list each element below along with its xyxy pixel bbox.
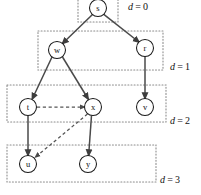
node-s-label: s xyxy=(96,3,99,13)
node-u[interactable]: u xyxy=(20,156,37,173)
level-label-d2-var: d xyxy=(170,115,176,126)
node-v[interactable]: v xyxy=(137,99,154,116)
level-label-d2-eq: = xyxy=(177,115,183,126)
node-w[interactable]: w xyxy=(49,42,66,59)
edge-x-u xyxy=(35,114,88,158)
level-label-d1-eq: = xyxy=(177,61,183,72)
level-label-d3-value: 3 xyxy=(175,174,180,185)
edge-w-x xyxy=(63,57,89,100)
level-label-d0-eq: = xyxy=(135,1,141,12)
bfs-tree-figure: s w r t x v u xyxy=(0,0,201,195)
node-w-label: w xyxy=(54,45,61,55)
cross-edges xyxy=(35,107,88,158)
edge-w-t xyxy=(32,57,52,100)
level-label-d0: d=0 xyxy=(128,1,148,12)
level-label-d1: d=1 xyxy=(170,61,190,72)
node-x[interactable]: x xyxy=(85,99,102,116)
edge-s-r xyxy=(104,14,140,42)
level-boxes xyxy=(7,0,166,182)
node-r[interactable]: r xyxy=(137,40,154,57)
edge-s-w xyxy=(62,15,93,45)
graph-nodes: s w r t x v u xyxy=(20,0,154,173)
level-label-d3-var: d xyxy=(160,174,166,185)
level-label-d0-value: 0 xyxy=(143,1,148,12)
level-labels: d=0 d=1 d=2 d=3 xyxy=(128,1,190,185)
level-label-d0-var: d xyxy=(128,1,134,12)
node-t[interactable]: t xyxy=(20,99,37,116)
level-label-d1-value: 1 xyxy=(185,61,190,72)
node-s[interactable]: s xyxy=(90,0,107,17)
node-r-label: r xyxy=(144,43,147,53)
node-y[interactable]: y xyxy=(80,156,97,173)
level-label-d2: d=2 xyxy=(170,115,190,126)
level-label-d3: d=3 xyxy=(160,174,180,185)
level-label-d2-value: 2 xyxy=(185,115,190,126)
level-label-d1-var: d xyxy=(170,61,176,72)
level-label-d3-eq: = xyxy=(167,174,173,185)
